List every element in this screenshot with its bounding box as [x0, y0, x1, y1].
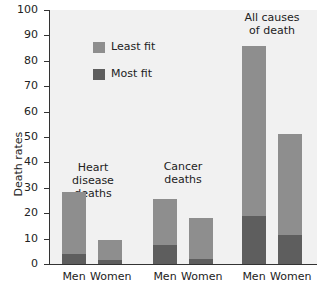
bar-least-fit	[189, 218, 213, 264]
bar-most-fit	[62, 254, 86, 264]
x-axis	[49, 264, 317, 265]
y-tick-label: 20	[24, 207, 38, 219]
y-tick	[44, 264, 49, 265]
y-tick-label: 70	[24, 80, 38, 92]
y-axis-label: Death rates	[12, 137, 25, 197]
y-tick-label: 50	[24, 131, 38, 143]
y-tick	[44, 61, 49, 62]
y-tick	[44, 35, 49, 36]
y-tick-label: 0	[31, 258, 38, 270]
bar-most-fit	[278, 235, 302, 264]
y-tick-label: 90	[24, 29, 38, 41]
legend-swatch-most	[93, 69, 105, 80]
x-label-women-1: Women	[90, 270, 130, 283]
group-label-cancer: Cancer deaths	[158, 160, 208, 186]
y-tick	[44, 86, 49, 87]
x-label-men-3: Men	[234, 270, 274, 283]
x-label-men-1: Men	[54, 270, 94, 283]
group-label-all: All causes of death	[244, 11, 300, 37]
legend-swatch-least	[93, 42, 105, 53]
y-tick-label: 60	[24, 106, 38, 118]
y-tick	[44, 112, 49, 113]
y-tick-label: 30	[24, 182, 38, 194]
y-tick	[44, 188, 49, 189]
bar-most-fit	[242, 216, 266, 264]
legend-most-fit: Most fit	[93, 67, 152, 80]
bar-most-fit	[189, 259, 213, 264]
y-tick	[44, 239, 49, 240]
x-label-women-3: Women	[270, 270, 310, 283]
x-label-women-2: Women	[181, 270, 221, 283]
legend-least-fit: Least fit	[93, 40, 155, 53]
y-tick-label: 80	[24, 55, 38, 67]
y-tick-label: 40	[24, 156, 38, 168]
bar-most-fit	[98, 260, 122, 264]
y-tick	[44, 137, 49, 138]
plot-area	[49, 10, 317, 264]
y-tick-label: 100	[17, 4, 38, 16]
y-tick	[44, 162, 49, 163]
y-tick	[44, 10, 49, 11]
x-label-men-2: Men	[145, 270, 185, 283]
y-axis	[49, 10, 50, 265]
y-tick-label: 10	[24, 233, 38, 245]
bar-most-fit	[153, 245, 177, 264]
y-tick	[44, 213, 49, 214]
